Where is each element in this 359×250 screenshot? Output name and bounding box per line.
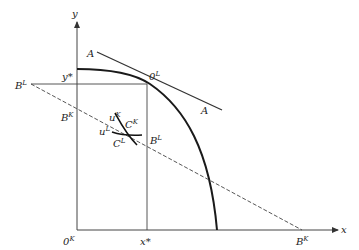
B-L-left-label: BL	[14, 79, 27, 91]
C-K-label: CK	[125, 118, 139, 130]
budget-line-dashed	[31, 84, 302, 230]
A-bottom-label: A	[200, 105, 208, 116]
C-L-label: CL	[113, 137, 126, 149]
A-top-label: A	[86, 48, 94, 59]
tangent-line-AA	[97, 52, 222, 110]
y-axis-label: y	[71, 8, 78, 19]
u-L-label: uL	[99, 125, 110, 137]
B-K-left-label: BK	[60, 111, 74, 123]
x-star-label: x*	[140, 236, 151, 247]
x-axis-label: x	[341, 224, 347, 235]
edgeworth-box-diagram: y x y* x* 0K 0L A A BL BK BL BK uK uL CK…	[0, 0, 359, 250]
B-L-mid-label: BL	[149, 134, 162, 146]
y-star-label: y*	[61, 71, 73, 82]
origin-K-label: 0K	[63, 235, 75, 247]
B-K-axis-label: BK	[295, 235, 309, 247]
